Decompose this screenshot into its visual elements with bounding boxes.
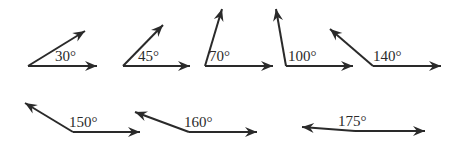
angle-label-100: 100°: [288, 49, 317, 64]
angled-ray: [135, 112, 189, 132]
arrowhead-icon: [72, 31, 85, 42]
angle-label-150: 150°: [69, 115, 98, 130]
angle-label-140: 140°: [373, 49, 402, 64]
angle-label-30: 30°: [55, 49, 76, 64]
angle-label-175: 175°: [338, 114, 367, 129]
angle-label-160: 160°: [184, 115, 213, 130]
angled-ray: [330, 29, 373, 66]
angled-ray: [25, 103, 73, 132]
angle-label-70: 70°: [209, 49, 230, 64]
angle-label-45: 45°: [138, 49, 159, 64]
arrowhead-icon: [25, 103, 38, 114]
